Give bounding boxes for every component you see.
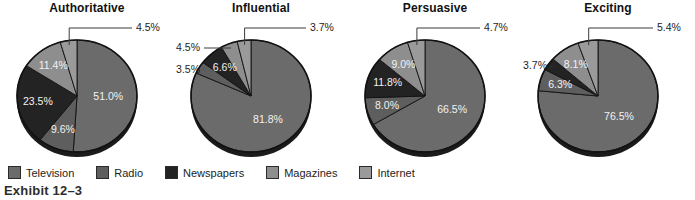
pie-canvas: 51.0%9.6%23.5%11.4%4.5% <box>0 20 174 160</box>
legend-label: Radio <box>114 167 143 179</box>
slice-callout-label: 3.7% <box>310 21 334 33</box>
legend-swatch-icon <box>266 166 279 179</box>
legend-item: Magazines <box>266 166 337 179</box>
pie-chart-authoritative: Authoritative 51.0%9.6%23.5%11.4%4.5% <box>0 0 174 162</box>
slice-value-label: 11.8% <box>373 76 402 88</box>
slice-value-label: 8.0% <box>375 99 399 111</box>
pie-canvas: 66.5%8.0%11.8%9.0%4.7% <box>348 20 522 160</box>
slice-value-label: 8.1% <box>564 58 588 70</box>
pie-chart-row: Authoritative 51.0%9.6%23.5%11.4%4.5% In… <box>0 0 695 162</box>
pie-svg: 76.5%6.3%3.7%8.1%5.4% <box>521 20 695 160</box>
slice-value-label: 51.0% <box>93 90 123 102</box>
pie-svg: 66.5%8.0%11.8%9.0%4.7% <box>348 20 522 160</box>
slice-value-label: 76.5% <box>604 110 634 122</box>
chart-legend: TelevisionRadioNewspapersMagazinesIntern… <box>8 166 437 179</box>
legend-label: Magazines <box>284 167 337 179</box>
slice-value-label: 9.0% <box>391 58 415 70</box>
legend-swatch-icon <box>96 166 109 179</box>
exhibit-figure: Authoritative 51.0%9.6%23.5%11.4%4.5% In… <box>0 0 695 200</box>
pie-chart-exciting: Exciting 76.5%6.3%3.7%8.1%5.4% <box>521 0 695 162</box>
slice-value-label: 6.6% <box>213 61 237 73</box>
slice-callout-label: 4.5% <box>136 21 160 33</box>
pie-chart-persuasive: Persuasive 66.5%8.0%11.8%9.0%4.7% <box>348 0 522 162</box>
legend-swatch-icon <box>8 166 21 179</box>
slice-value-label: 66.5% <box>437 103 467 115</box>
legend-swatch-icon <box>359 166 372 179</box>
legend-label: Internet <box>377 167 414 179</box>
pie-svg: 51.0%9.6%23.5%11.4%4.5% <box>0 20 174 160</box>
chart-title: Authoritative <box>0 1 174 15</box>
legend-label: Television <box>26 167 74 179</box>
legend-swatch-icon <box>165 166 178 179</box>
legend-item: Newspapers <box>165 166 244 179</box>
pie-canvas: 81.8%3.5%6.6%4.5%3.7% <box>174 20 348 160</box>
legend-label: Newspapers <box>183 167 244 179</box>
pie-svg: 81.8%3.5%6.6%4.5%3.7% <box>174 20 348 160</box>
chart-title: Exciting <box>521 1 695 15</box>
legend-item: Television <box>8 166 74 179</box>
slice-callout-label: 4.7% <box>484 21 508 33</box>
pie-canvas: 76.5%6.3%3.7%8.1%5.4% <box>521 20 695 160</box>
legend-item: Internet <box>359 166 414 179</box>
slice-callout-label: 3.7% <box>523 59 547 71</box>
pie-chart-influential: Influential 81.8%3.5%6.6%4.5%3.7% <box>174 0 348 162</box>
slice-callout-label: 3.5% <box>176 63 200 75</box>
slice-callout-label: 5.4% <box>657 21 681 33</box>
legend-item: Radio <box>96 166 143 179</box>
slice-callout-label: 4.5% <box>176 41 200 53</box>
slice-value-label: 9.6% <box>51 123 75 135</box>
exhibit-caption: Exhibit 12–3 <box>4 183 82 198</box>
chart-title: Influential <box>174 1 348 15</box>
chart-title: Persuasive <box>348 1 522 15</box>
slice-value-label: 6.3% <box>548 78 572 90</box>
slice-value-label: 81.8% <box>253 113 283 125</box>
slice-value-label: 11.4% <box>39 59 68 71</box>
slice-value-label: 23.5% <box>23 95 53 107</box>
